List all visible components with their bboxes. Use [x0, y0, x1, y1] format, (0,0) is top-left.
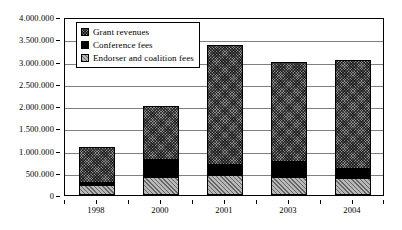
x-tick-label: 2001	[215, 205, 232, 215]
x-axis-boundary-tick	[64, 200, 65, 204]
dark-cross-hatch-icon	[81, 28, 89, 36]
legend-item[interactable]: Endorser and coalition fees	[81, 51, 194, 64]
y-tick-mark	[56, 18, 60, 19]
light-diagonal-hatch-icon	[81, 54, 89, 62]
x-axis-boundary-tick	[256, 200, 257, 204]
bar-segment[interactable]	[143, 106, 179, 160]
y-tick-mark	[56, 107, 60, 108]
bar-segment[interactable]	[79, 147, 115, 183]
y-tick-label: 2.500.000	[19, 80, 54, 89]
bar-stack[interactable]	[271, 17, 307, 195]
x-tick-mark	[96, 200, 97, 204]
legend-item[interactable]: Conference fees	[81, 38, 194, 51]
x-axis-boundary-tick	[383, 200, 384, 204]
solid-black-icon	[81, 41, 89, 49]
bar-segment[interactable]	[271, 162, 307, 177]
bar-segment[interactable]	[335, 60, 371, 169]
bar-stack[interactable]	[207, 17, 243, 195]
legend-item-label: Endorser and coalition fees	[93, 53, 194, 63]
x-tick-mark	[224, 200, 225, 204]
y-tick-label: 4.000.000	[19, 14, 54, 23]
x-axis-boundary-tick	[320, 200, 321, 204]
bar-segment[interactable]	[207, 165, 243, 175]
bar-segment[interactable]	[271, 62, 307, 162]
stacked-bar-chart: 0500.0001.000.0001.500.0002.000.0002.500…	[0, 0, 402, 230]
y-tick-mark	[56, 63, 60, 64]
bar-segment[interactable]	[335, 178, 371, 195]
y-tick-mark	[56, 174, 60, 175]
legend-item-label: Grant revenues	[93, 27, 149, 37]
bar-segment[interactable]	[335, 169, 371, 178]
y-tick-mark	[56, 40, 60, 41]
y-tick-label: 0	[50, 192, 54, 201]
bar-segment[interactable]	[79, 183, 115, 185]
x-tick-label: 1998	[87, 205, 104, 215]
bar-segment[interactable]	[143, 160, 179, 177]
bar-segment[interactable]	[207, 175, 243, 195]
y-tick-label: 3.500.000	[19, 36, 54, 45]
legend-item[interactable]: Grant revenues	[81, 25, 194, 38]
y-tick-label: 3.000.000	[19, 58, 54, 67]
x-tick-label: 2004	[343, 205, 360, 215]
chart-legend: Grant revenuesConference feesEndorser an…	[76, 22, 200, 68]
x-tick-label: 2000	[151, 205, 168, 215]
y-tick-mark	[56, 196, 60, 197]
x-tick-mark	[352, 200, 353, 204]
y-tick-mark	[56, 129, 60, 130]
y-tick-label: 1.500.000	[19, 125, 54, 134]
bar-segment[interactable]	[79, 185, 115, 195]
x-tick-label: 2003	[279, 205, 296, 215]
bar-segment[interactable]	[207, 45, 243, 165]
y-tick-label: 500.000	[26, 169, 54, 178]
x-axis-boundary-tick	[128, 200, 129, 204]
y-tick-mark	[56, 152, 60, 153]
x-axis: 19982000200120032004	[64, 200, 384, 218]
x-axis-boundary-tick	[192, 200, 193, 204]
x-tick-mark	[288, 200, 289, 204]
y-tick-label: 1.000.000	[19, 147, 54, 156]
y-axis: 0500.0001.000.0001.500.0002.000.0002.500…	[0, 18, 60, 196]
bar-segment[interactable]	[271, 177, 307, 195]
y-tick-label: 2.000.000	[19, 103, 54, 112]
bar-stack[interactable]	[335, 17, 371, 195]
x-tick-mark	[160, 200, 161, 204]
legend-item-label: Conference fees	[93, 40, 153, 50]
y-tick-mark	[56, 85, 60, 86]
bar-segment[interactable]	[143, 177, 179, 195]
